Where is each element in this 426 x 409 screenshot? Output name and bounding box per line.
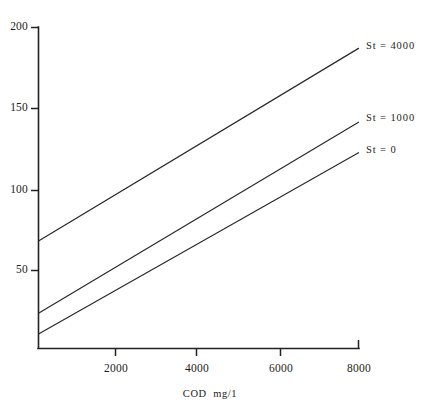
chart-figure: 200 150 100 50 2000 4000 6000 8000 COD m… [0,0,426,409]
series-label-st-1000: St = 1000 [366,112,415,123]
x-tick-label-8000: 8000 [335,362,383,374]
chart-plot-area [0,0,426,409]
x-tick-label-6000: 6000 [257,362,305,374]
y-tick-label-150: 150 [0,101,28,113]
series-line-st-4000 [39,48,359,241]
y-tick-label-50: 50 [0,263,28,275]
y-tick-label-200: 200 [0,20,28,32]
y-tick-label-100: 100 [0,183,28,195]
series-line-st-0 [39,153,359,334]
x-tick-label-2000: 2000 [92,362,140,374]
series-line-st-1000 [39,122,359,313]
x-tick-label-4000: 4000 [173,362,221,374]
series-label-st-0: St = 0 [366,144,397,155]
series-label-st-4000: St = 4000 [366,40,415,51]
x-axis-title: COD mg/1 [140,388,280,399]
